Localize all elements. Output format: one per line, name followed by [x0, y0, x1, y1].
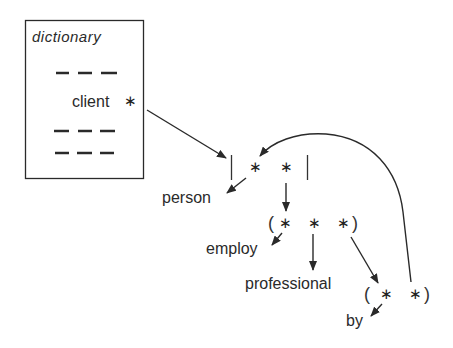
arrow-to-person — [227, 178, 246, 193]
arrow-to-employ — [272, 233, 282, 245]
dictionary-entry-client: client — [72, 94, 109, 110]
placeholder-dashes — [54, 73, 117, 153]
employ-slot-3: ∗ — [337, 216, 350, 231]
arrow-client-to-frame — [147, 110, 226, 158]
node-by: by — [346, 313, 363, 329]
frame-slot-2: ∗ — [280, 160, 293, 175]
node-person: person — [162, 190, 211, 206]
frame-slot-1: ∗ — [249, 160, 262, 175]
employ-frame-open: ( — [268, 214, 274, 232]
by-slot-1: ∗ — [380, 287, 393, 302]
node-professional: professional — [245, 276, 331, 292]
employ-frame-close: ) — [352, 214, 358, 232]
dictionary-title: dictionary — [32, 29, 101, 44]
arrow-to-by-frame — [351, 237, 378, 283]
employ-slot-2: ∗ — [308, 216, 321, 231]
employ-slot-1: ∗ — [279, 216, 292, 231]
arrow-to-by — [371, 304, 382, 316]
by-slot-2: ∗ — [409, 287, 422, 302]
arrow-back-reference — [260, 134, 411, 282]
by-frame-open: ( — [364, 285, 370, 303]
client-pointer-star: ∗ — [124, 94, 137, 109]
semantic-network-diagram: dictionary client ∗ ∗ ∗ person ( ∗ ∗ ∗ )… — [0, 0, 453, 348]
node-employ: employ — [206, 241, 258, 257]
by-frame-close: ) — [424, 285, 430, 303]
